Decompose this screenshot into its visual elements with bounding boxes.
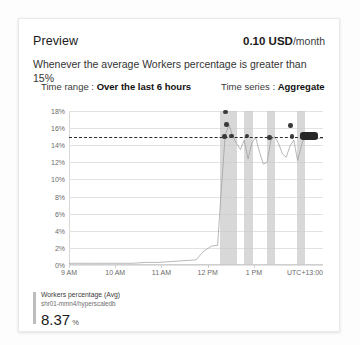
time-range-value: Over the last 6 hours bbox=[97, 81, 192, 92]
chart-legend[interactable]: Workers percentage (Avg) shr01-mmn4/hype… bbox=[33, 291, 183, 331]
x-axis-tick-label: 1 PM bbox=[246, 269, 262, 276]
legend-metric-name: Workers percentage (Avg) bbox=[41, 291, 183, 300]
violation-point[interactable] bbox=[224, 122, 229, 127]
y-axis-tick-label: 6% bbox=[55, 210, 65, 217]
y-axis-tick-label: 4% bbox=[55, 227, 65, 234]
y-axis-tick-label: 8% bbox=[55, 193, 65, 200]
price-amount: 0.10 USD bbox=[243, 35, 293, 47]
grid-line bbox=[69, 265, 323, 266]
time-range-meta: Time range : Over the last 6 hours bbox=[41, 81, 191, 92]
x-axis-tick-label: 12 PM bbox=[198, 269, 218, 276]
x-axis-tick-label: 10 AM bbox=[105, 269, 125, 276]
time-series-label: Time series : bbox=[221, 81, 275, 92]
y-axis-tick-label: 10% bbox=[51, 176, 65, 183]
y-axis-tick-label: 18% bbox=[51, 108, 65, 115]
violation-point[interactable] bbox=[267, 135, 272, 140]
series-line bbox=[69, 125, 323, 264]
price-estimate: 0.10 USD/month bbox=[243, 35, 325, 47]
y-axis-tick-label: 0% bbox=[55, 262, 65, 269]
legend-value-number: 8.37 bbox=[41, 311, 70, 328]
violation-point[interactable] bbox=[222, 134, 227, 139]
time-series-value: Aggregate bbox=[278, 81, 325, 92]
violation-point[interactable] bbox=[288, 123, 293, 128]
legend-value-unit: % bbox=[72, 318, 79, 327]
x-axis-tick bbox=[69, 265, 70, 268]
threshold-line bbox=[69, 137, 323, 138]
legend-text: Workers percentage (Avg) shr01-mmn4/hype… bbox=[41, 291, 183, 331]
violation-point[interactable] bbox=[229, 134, 234, 139]
price-period: /month bbox=[293, 35, 325, 47]
time-series-meta: Time series : Aggregate bbox=[221, 81, 325, 92]
preview-card: Preview 0.10 USD/month Whenever the aver… bbox=[18, 18, 340, 332]
legend-color-swatch bbox=[33, 292, 36, 324]
x-axis-tick bbox=[208, 265, 209, 268]
chart-plot-area: 18%16%14%12%10%8%6%4%2%0%9 AM10 AM11 AM1… bbox=[69, 111, 323, 265]
metric-chart: 18%16%14%12%10%8%6%4%2%0%9 AM10 AM11 AM1… bbox=[33, 107, 327, 287]
x-axis-tick bbox=[115, 265, 116, 268]
y-axis-tick-label: 12% bbox=[51, 159, 65, 166]
card-header: Preview 0.10 USD/month bbox=[33, 31, 325, 51]
chart-meta-row: Time range : Over the last 6 hours Time … bbox=[41, 81, 325, 97]
violation-point[interactable] bbox=[245, 134, 250, 139]
y-axis-tick-label: 2% bbox=[55, 244, 65, 251]
legend-resource-name: shr01-mmn4/hyperscaledb bbox=[41, 300, 183, 309]
violation-point[interactable] bbox=[223, 110, 228, 115]
legend-current-value: 8.37% bbox=[41, 311, 183, 331]
y-axis-tick-label: 14% bbox=[51, 142, 65, 149]
x-axis-tick-label: 9 AM bbox=[61, 269, 77, 276]
page-title: Preview bbox=[33, 34, 78, 48]
violation-point[interactable] bbox=[290, 134, 295, 139]
screenshot-root: Preview 0.10 USD/month Whenever the aver… bbox=[0, 0, 360, 345]
time-range-label: Time range : bbox=[41, 81, 94, 92]
x-axis-tick-label: 11 AM bbox=[152, 269, 171, 276]
x-axis-tick bbox=[161, 265, 162, 268]
series-end-marker[interactable] bbox=[300, 132, 318, 140]
timezone-label: UTC+13:00 bbox=[287, 269, 323, 276]
x-axis-tick bbox=[254, 265, 255, 268]
y-axis-tick-label: 16% bbox=[51, 125, 65, 132]
series-line-layer bbox=[69, 111, 323, 265]
